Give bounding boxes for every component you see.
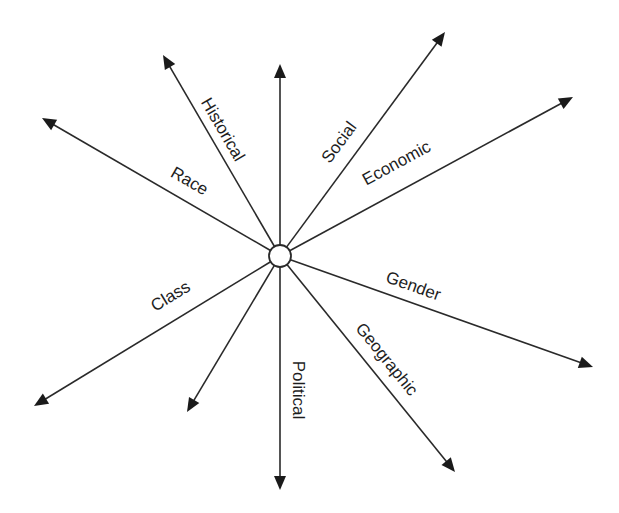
- arrow-line: [44, 262, 270, 400]
- arrowhead-icon: [432, 32, 445, 47]
- label-class: Class: [147, 277, 193, 315]
- label-historical: Historical: [197, 95, 249, 165]
- arrow-gender: [290, 260, 593, 368]
- arrows-group: [34, 32, 593, 490]
- arrow-line: [169, 65, 274, 246]
- arrow-up-unlabeled: [274, 64, 286, 245]
- arrowhead-icon: [578, 357, 593, 368]
- arrow-class: [34, 262, 271, 406]
- arrowhead-icon: [34, 394, 49, 406]
- label-social: Social: [318, 118, 361, 167]
- center-hub-circle: [269, 245, 291, 267]
- arrow-historical: [163, 55, 274, 246]
- arrowhead-icon: [187, 397, 199, 412]
- arrow-political: [274, 267, 286, 490]
- arrowhead-icon: [558, 97, 573, 109]
- label-political: Political: [289, 361, 308, 420]
- arrowhead-icon: [274, 64, 286, 78]
- labels-group: HistoricalRaceSocialEconomicClassPolitic…: [147, 95, 443, 420]
- arrowhead-icon: [442, 457, 455, 472]
- arrow-line: [290, 260, 581, 363]
- arrow-down-left-unlabeled: [187, 265, 274, 412]
- arrowhead-icon: [163, 55, 175, 70]
- arrow-economic: [290, 97, 573, 251]
- label-economic: Economic: [359, 137, 434, 190]
- arrowhead-icon: [274, 476, 286, 490]
- radial-diagram: HistoricalRaceSocialEconomicClassPolitic…: [0, 0, 619, 513]
- arrowhead-icon: [42, 118, 57, 130]
- label-gender: Gender: [383, 268, 443, 305]
- arrow-line: [290, 103, 563, 251]
- arrow-line: [193, 265, 274, 401]
